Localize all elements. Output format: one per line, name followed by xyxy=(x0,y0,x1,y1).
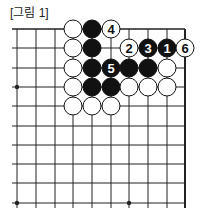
black-stone xyxy=(120,59,138,77)
black-stone xyxy=(83,39,101,57)
black-stone xyxy=(83,78,101,96)
star-point xyxy=(127,201,131,205)
white-stone xyxy=(83,97,101,115)
move-number: 1 xyxy=(163,41,170,56)
black-stone xyxy=(83,20,101,38)
white-stone xyxy=(64,59,82,77)
white-stone xyxy=(139,78,157,96)
go-board: 423165 xyxy=(0,0,200,220)
black-stone xyxy=(139,59,157,77)
black-stone xyxy=(83,59,101,77)
white-stone xyxy=(102,97,120,115)
white-stone xyxy=(158,59,176,77)
white-stone xyxy=(64,78,82,96)
move-number: 4 xyxy=(107,22,115,37)
white-stone xyxy=(64,39,82,57)
star-point xyxy=(15,201,19,205)
white-stone xyxy=(64,20,82,38)
white-stone xyxy=(120,78,138,96)
move-number: 3 xyxy=(144,41,151,56)
white-stone xyxy=(64,97,82,115)
white-stone xyxy=(158,78,176,96)
star-point xyxy=(15,85,19,89)
black-stone xyxy=(102,78,120,96)
move-number: 6 xyxy=(181,41,188,56)
move-number: 5 xyxy=(107,61,114,76)
move-number: 2 xyxy=(125,41,132,56)
